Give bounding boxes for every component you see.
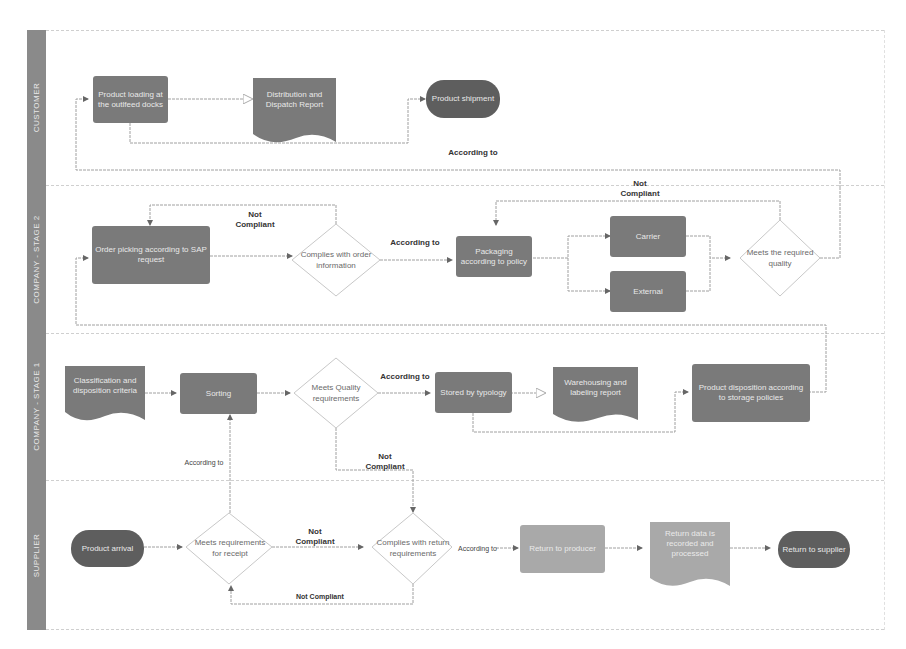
edge-label-not-compliant: Not Compliant <box>230 210 280 230</box>
document-classification-criteria[interactable]: Classification and disposition criteria <box>65 366 145 406</box>
edge-label-not-compliant: Not Compliant <box>290 527 340 547</box>
edge-label-according-to: According to <box>458 544 497 554</box>
node-label: Packaging according to policy <box>459 247 529 267</box>
decision-label: Complies with order information <box>296 240 376 280</box>
node-label: Carrier <box>636 232 660 242</box>
edge-label-according-to: According to <box>184 458 224 468</box>
edge-label-according-to: According to <box>448 148 498 158</box>
node-label: Classification and disposition criteria <box>68 376 142 396</box>
process-sorting[interactable]: Sorting <box>180 373 257 414</box>
process-return-producer[interactable]: Return to producer <box>520 525 605 573</box>
edge-label-according-to: According to <box>390 238 440 248</box>
document-warehousing-report[interactable]: Warehousing and labeling report <box>553 368 638 408</box>
decision-label: Complies with return requirements <box>374 528 452 568</box>
node-label: Product shipment <box>432 94 494 104</box>
node-label: Return to producer <box>529 544 596 554</box>
process-product-loading[interactable]: Product loading at the outlfeed docks <box>93 76 168 123</box>
node-label: Return to supplier <box>782 545 845 555</box>
node-label: Stored by typology <box>440 388 506 398</box>
node-label: Order picking according to SAP request <box>95 245 207 265</box>
edge-label-not-compliant: Not Compliant <box>615 179 665 199</box>
process-packaging[interactable]: Packaging according to policy <box>456 236 532 277</box>
terminal-return-supplier[interactable]: Return to supplier <box>778 531 850 568</box>
edge-label-according-to: According to <box>380 372 430 382</box>
terminal-product-shipment[interactable]: Product shipment <box>426 80 500 118</box>
node-label: Sorting <box>206 389 231 399</box>
edge-label-not-compliant: Not Compliant <box>296 592 344 602</box>
process-order-picking[interactable]: Order picking according to SAP request <box>92 226 210 284</box>
process-product-disposition[interactable]: Product disposition according to storage… <box>692 364 810 422</box>
node-label: Product arrival <box>82 544 134 554</box>
decision-label: Meets the required quality <box>744 240 816 276</box>
node-label: Product loading at the outlfeed docks <box>96 90 165 110</box>
node-label: Warehousing and labeling report <box>556 378 635 398</box>
decision-label: Meets requirements for receipt <box>192 528 268 568</box>
terminal-product-arrival[interactable]: Product arrival <box>71 530 144 567</box>
process-external[interactable]: External <box>610 271 686 312</box>
process-carrier[interactable]: Carrier <box>610 216 686 257</box>
node-label: Distribution and Dispatch Report <box>256 90 333 110</box>
swimlane-diagram: CUSTOMER COMPANY - STAGE 2 COMPANY - STA… <box>0 0 906 649</box>
document-return-data[interactable]: Return data is recorded and processed <box>650 522 730 566</box>
node-label: Return data is recorded and processed <box>653 529 727 559</box>
decision-label: Meets Quality requirements <box>300 376 372 410</box>
node-label: External <box>633 287 662 297</box>
node-label: Product disposition according to storage… <box>695 383 807 403</box>
process-stored-typology[interactable]: Stored by typology <box>435 372 512 413</box>
document-distribution-report[interactable]: Distribution and Dispatch Report <box>253 80 336 120</box>
edge-label-not-compliant: Not Compliant <box>360 452 410 472</box>
